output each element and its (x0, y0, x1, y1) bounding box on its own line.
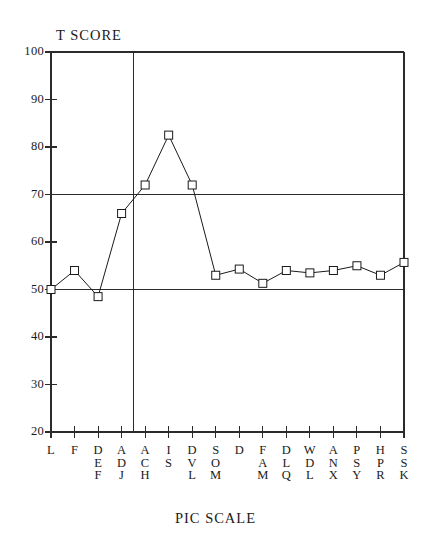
x-tick-label-IS: IS (158, 444, 180, 469)
y-tick-label-30: 30 (10, 378, 44, 391)
x-label-char: S (393, 444, 415, 457)
x-tick-label-ACH: ACH (134, 444, 156, 482)
data-point-L (47, 286, 55, 294)
x-tick-label-D: D (228, 444, 250, 457)
x-tick-label-PSY: PSY (346, 444, 368, 482)
x-label-char: A (111, 444, 133, 457)
x-label-char: D (275, 444, 297, 457)
x-tick-label-FAM: FAM (252, 444, 274, 482)
x-tick-label-F: F (64, 444, 86, 457)
data-series (51, 135, 404, 297)
data-point-SOM (212, 271, 220, 279)
data-point-DLQ (282, 267, 290, 275)
data-point-D (235, 265, 243, 273)
data-point-ACH (141, 181, 149, 189)
data-point-PSY (353, 262, 361, 270)
x-label-char: Q (275, 469, 297, 482)
data-point-DVL (188, 181, 196, 189)
axis-frame (51, 52, 404, 432)
data-point-FAM (259, 279, 267, 287)
data-point-HPR (376, 271, 384, 279)
x-tick-label-WDL: WDL (299, 444, 321, 482)
x-label-char: W (299, 444, 321, 457)
x-tick-label-HPR: HPR (369, 444, 391, 482)
x-label-char: D (181, 444, 203, 457)
x-label-char: D (87, 444, 109, 457)
data-point-ADJ (118, 210, 126, 218)
x-label-char: L (40, 444, 62, 457)
data-point-DEF (94, 293, 102, 301)
pic-profile-chart: T SCORE 1009080706050403020 LFDEFADJACHI… (0, 0, 431, 548)
x-label-char: A (134, 444, 156, 457)
series-polyline (51, 135, 404, 297)
y-tick-label-100: 100 (10, 45, 44, 58)
x-label-char: X (322, 469, 344, 482)
x-label-char: K (393, 469, 415, 482)
x-tick-label-L: L (40, 444, 62, 457)
x-label-char: J (111, 469, 133, 482)
x-label-char: P (346, 444, 368, 457)
y-tick-label-70: 70 (10, 188, 44, 201)
y-tick-label-40: 40 (10, 330, 44, 343)
x-tick-label-DLQ: DLQ (275, 444, 297, 482)
y-tick-label-80: 80 (10, 140, 44, 153)
data-point-IS (165, 131, 173, 139)
x-label-char: I (158, 444, 180, 457)
x-label-char: L (181, 469, 203, 482)
x-label-char: F (252, 444, 274, 457)
y-tick-label-90: 90 (10, 93, 44, 106)
x-axis-title: PIC SCALE (0, 510, 431, 527)
x-tick-label-DVL: DVL (181, 444, 203, 482)
data-point-F (71, 267, 79, 275)
data-point-ANX (329, 267, 337, 275)
x-label-char: H (369, 444, 391, 457)
x-label-char: Y (346, 469, 368, 482)
x-label-char: M (205, 469, 227, 482)
x-label-char: S (158, 457, 180, 470)
data-point-SSK (400, 258, 408, 266)
data-point-WDL (306, 269, 314, 277)
x-label-char: H (134, 469, 156, 482)
x-label-char: A (322, 444, 344, 457)
x-label-char: M (252, 469, 274, 482)
y-tick-label-50: 50 (10, 283, 44, 296)
x-tick-label-DEF: DEF (87, 444, 109, 482)
y-tick-label-20: 20 (10, 425, 44, 438)
x-label-char: S (205, 444, 227, 457)
x-label-char: F (64, 444, 86, 457)
y-tick-label-60: 60 (10, 235, 44, 248)
x-tick-label-ANX: ANX (322, 444, 344, 482)
x-label-char: R (369, 469, 391, 482)
x-label-char: L (299, 469, 321, 482)
x-tick-label-ADJ: ADJ (111, 444, 133, 482)
data-markers (47, 131, 408, 301)
x-label-char: D (228, 444, 250, 457)
x-tick-label-SSK: SSK (393, 444, 415, 482)
x-tick-label-SOM: SOM (205, 444, 227, 482)
x-label-char: F (87, 469, 109, 482)
